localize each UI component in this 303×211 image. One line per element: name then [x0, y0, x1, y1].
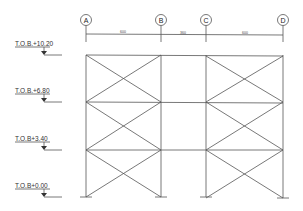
grid-label-a: A [84, 17, 89, 24]
frame-elevation-drawing: A B C D 600 360 600 T.O.B.+10.20 T.O.B.+… [0, 0, 303, 211]
level-label-10-20: T.O.B.+10.20 [15, 40, 54, 47]
beam-level-10-20 [86, 55, 283, 56]
dimension-b-c: 360 [180, 31, 186, 35]
level-label-6-80: T.O.B.+6.80 [15, 87, 50, 94]
level-marker-10-20 [15, 47, 62, 55]
beam-level-6-80 [86, 102, 283, 103]
grid-label-b: B [159, 17, 164, 24]
dimension-c-d: 600 [242, 31, 248, 35]
level-marker-0-00 [15, 189, 62, 197]
level-label-0-00: T.O.B+0.00 [15, 182, 48, 189]
level-marker-3-40 [15, 142, 62, 150]
level-triangle-icon [41, 193, 47, 197]
dimension-a-b: 600 [120, 30, 126, 34]
level-triangle-icon [41, 98, 47, 102]
level-label-3-40: T.O.B+3.40 [15, 135, 48, 142]
level-marker-6-80 [15, 94, 62, 102]
grid-label-d: D [280, 17, 285, 24]
level-triangle-icon [41, 51, 47, 55]
level-triangle-icon [41, 146, 47, 150]
grid-label-c: C [203, 17, 208, 24]
